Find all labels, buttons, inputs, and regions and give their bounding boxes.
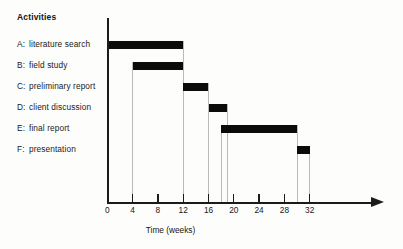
gantt-chart: Activities A:literature searchB:field st… xyxy=(0,0,403,249)
x-axis-tick-label: 32 xyxy=(305,205,314,215)
x-axis-tick-label: 0 xyxy=(105,205,110,215)
x-axis-tick-label: 4 xyxy=(130,205,135,215)
y-axis-line xyxy=(107,18,109,203)
x-axis-tick-label: 24 xyxy=(254,205,263,215)
x-axis-tick xyxy=(183,194,184,202)
x-axis-tick xyxy=(107,194,108,202)
plot-area: 048121620242832 Time (weeks) xyxy=(0,0,403,249)
gridline xyxy=(221,125,222,203)
x-axis-tick xyxy=(157,194,158,202)
x-axis-tick-label: 16 xyxy=(204,205,213,215)
gridline xyxy=(132,62,133,203)
x-axis-tick-label: 20 xyxy=(229,205,238,215)
gridline xyxy=(208,104,209,203)
gridline xyxy=(183,83,184,203)
x-axis-tick-label: 8 xyxy=(156,205,161,215)
x-axis-tick xyxy=(208,194,209,202)
x-axis-tick xyxy=(284,194,285,202)
x-axis-tick-label: 12 xyxy=(179,205,188,215)
x-axis-tick xyxy=(258,194,259,202)
x-axis-arrow-icon xyxy=(371,197,384,207)
x-axis-tick-label: 28 xyxy=(280,205,289,215)
x-axis-tick xyxy=(309,194,310,202)
gantt-bar-b xyxy=(133,62,184,70)
gridline xyxy=(297,146,298,203)
gantt-bar-f xyxy=(297,146,310,154)
gantt-bar-e xyxy=(221,125,297,133)
x-axis-tick xyxy=(132,194,133,202)
gridline xyxy=(227,104,228,203)
x-axis-tick xyxy=(233,194,234,202)
gantt-bar-d xyxy=(209,104,228,112)
gantt-bar-c xyxy=(183,83,208,91)
x-axis-line xyxy=(107,202,375,204)
x-axis-title: Time (weeks) xyxy=(146,225,195,235)
gantt-bar-a xyxy=(107,41,183,49)
